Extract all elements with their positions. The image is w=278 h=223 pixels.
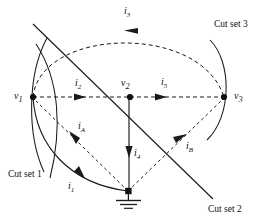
node-v1-dot	[30, 94, 36, 100]
branch-i5	[130, 93, 224, 100]
diagram-canvas	[0, 0, 278, 223]
cut-set-2-label: Cut set 2	[208, 205, 242, 215]
cut-set-1-label: Cut set 1	[8, 170, 42, 180]
branch-i2	[33, 93, 130, 100]
current-label-i4: i4	[134, 148, 140, 161]
node-label-v2: v2	[121, 78, 130, 91]
current-label-i3: i3	[124, 6, 130, 19]
node-label-v1: v1	[14, 91, 23, 104]
current-label-iB: iB	[186, 141, 193, 154]
cut-set-1-curve	[32, 38, 58, 178]
node-v2-dot	[127, 94, 133, 100]
branch-iB	[128, 101, 221, 191]
cut-set-2-line	[33, 24, 213, 199]
current-label-i1: i1	[68, 181, 74, 194]
node-v3-dot	[221, 94, 227, 100]
branch-i4	[125, 97, 132, 191]
ground-icon	[116, 191, 141, 208]
current-label-iA: iA	[78, 121, 85, 134]
current-label-i5: i5	[161, 77, 167, 90]
cut-set-3-curve	[207, 40, 226, 140]
node-label-v3: v3	[234, 91, 243, 104]
current-label-i2: i2	[75, 78, 81, 91]
cut-set-3-label: Cut set 3	[214, 20, 248, 30]
circuit-graph-figure: v1 v2 v3 i1 i2 i3 i4 i5 iA iB Cut set 1 …	[0, 0, 278, 223]
